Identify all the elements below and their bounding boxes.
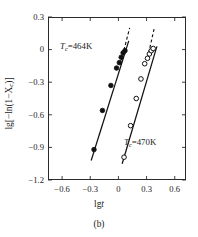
annotation-464-value: =464K bbox=[68, 41, 93, 51]
annotation-tc-464k: Tc=464K bbox=[60, 41, 92, 52]
y-axis-label: lg[−ln(1−Xc)] bbox=[4, 48, 15, 158]
y-axis-label-main: lg[−ln(1−X bbox=[4, 87, 14, 130]
x-axis-label-variable: t bbox=[101, 199, 104, 209]
y-axis-label-tail: )] bbox=[4, 77, 14, 83]
figure-panel-b: 0.30−0.3−0.6−0.9−1.2 −0.6−0.300.30.6 lg[… bbox=[0, 0, 198, 237]
annotation-tc-470k: Tc=470K bbox=[124, 137, 156, 148]
x-axis-label: lgt bbox=[0, 199, 198, 209]
figure-caption: (b) bbox=[0, 219, 198, 229]
x-tick-label: 0.6 bbox=[158, 185, 192, 194]
annotation-470-value: =470K bbox=[132, 137, 157, 147]
y-axis-label-subscript: c bbox=[7, 84, 14, 87]
